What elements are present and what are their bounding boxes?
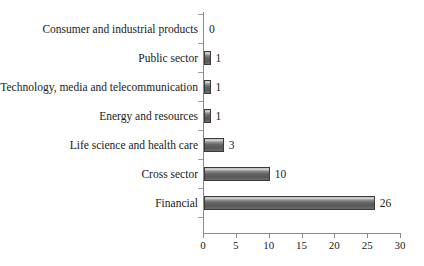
bar-value-label: 10 xyxy=(275,167,287,181)
category-label: Public sector xyxy=(138,51,198,65)
bar xyxy=(204,196,375,210)
x-axis-tick xyxy=(367,234,368,238)
y-axis-tick xyxy=(198,188,203,189)
bar-value-label: 0 xyxy=(209,22,215,36)
bar-value-label: 3 xyxy=(229,138,235,152)
y-axis-tick xyxy=(198,72,203,73)
y-axis-tick xyxy=(198,43,203,44)
bar xyxy=(204,167,270,181)
bar xyxy=(204,138,224,152)
x-axis-tick-label: 25 xyxy=(355,239,379,252)
bar-chart: Consumer and industrial products0Public … xyxy=(0,0,424,266)
x-axis-tick xyxy=(236,234,237,238)
bar-value-label: 1 xyxy=(216,80,222,94)
y-axis-tick xyxy=(198,130,203,131)
bar-value-label: 1 xyxy=(216,109,222,123)
bar-row: Consumer and industrial products0 xyxy=(0,14,424,43)
x-axis-tick-label: 15 xyxy=(290,239,314,252)
bar-row: Technology, media and telecommunication1 xyxy=(0,72,424,101)
category-label: Life science and health care xyxy=(70,138,198,152)
bar xyxy=(204,109,211,123)
category-label: Energy and resources xyxy=(99,109,198,123)
x-axis-tick xyxy=(269,234,270,238)
y-axis-tick xyxy=(198,14,203,15)
bar xyxy=(204,51,211,65)
bar-row: Cross sector10 xyxy=(0,159,424,188)
category-label: Financial xyxy=(155,196,198,210)
bar-row: Financial26 xyxy=(0,188,424,217)
y-axis-tick xyxy=(198,101,203,102)
x-axis-tick xyxy=(334,234,335,238)
x-axis-tick-label: 20 xyxy=(322,239,346,252)
x-axis-tick-label: 30 xyxy=(388,239,412,252)
x-axis-tick xyxy=(302,234,303,238)
y-axis-tick xyxy=(198,217,203,218)
x-axis-tick xyxy=(400,234,401,238)
category-label: Technology, media and telecommunication xyxy=(0,80,198,94)
category-label: Cross sector xyxy=(141,167,198,181)
bar-row: Public sector1 xyxy=(0,43,424,72)
x-axis-tick-label: 5 xyxy=(224,239,248,252)
y-axis-tick xyxy=(198,159,203,160)
x-axis-tick-label: 0 xyxy=(191,239,215,252)
x-axis-tick-label: 10 xyxy=(257,239,281,252)
bar-value-label: 1 xyxy=(216,51,222,65)
category-label: Consumer and industrial products xyxy=(42,22,198,36)
bar-row: Energy and resources1 xyxy=(0,101,424,130)
bar-row: Life science and health care3 xyxy=(0,130,424,159)
bar-value-label: 26 xyxy=(380,196,392,210)
x-axis-tick xyxy=(203,234,204,238)
bar xyxy=(204,80,211,94)
